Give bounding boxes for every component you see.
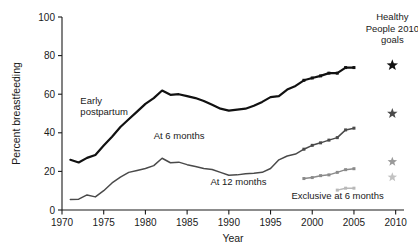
goals-title-line: Healthy — [376, 11, 408, 22]
breastfeeding-trends-chart: 0204060801001970197519801985199019952000… — [0, 0, 418, 247]
series-marker-1 — [336, 136, 339, 139]
series-marker-1 — [327, 139, 330, 142]
series-label-2: At 12 months — [210, 176, 266, 187]
series-marker-2 — [302, 177, 305, 180]
series-marker-0 — [336, 72, 339, 75]
series-marker-2 — [311, 176, 314, 179]
goals-title-line: goals — [381, 34, 404, 45]
series-label-1: At 6 months — [154, 130, 205, 141]
x-tick-label: 1970 — [51, 217, 74, 228]
series-marker-0 — [311, 76, 314, 79]
series-marker-1 — [302, 148, 305, 151]
series-label-0: postpartum — [80, 106, 128, 117]
series-marker-1 — [352, 127, 355, 130]
series-marker-0 — [302, 79, 305, 82]
y-tick-label: 40 — [44, 127, 56, 138]
series-marker-1 — [311, 144, 314, 147]
series-marker-1 — [344, 128, 347, 131]
series-label-0: Early — [80, 95, 102, 106]
goals-title-line: People 2010 — [366, 23, 418, 34]
y-tick-label: 0 — [49, 205, 55, 216]
chart-canvas: 0204060801001970197519801985199019952000… — [0, 0, 418, 247]
x-tick-label: 2010 — [385, 217, 408, 228]
x-tick-label: 1985 — [176, 217, 199, 228]
series-label-3: Exclusive at 6 months — [291, 190, 384, 201]
x-tick-label: 1975 — [93, 217, 116, 228]
series-marker-2 — [336, 171, 339, 174]
series-marker-3 — [352, 187, 355, 190]
x-tick-label: 1995 — [259, 217, 282, 228]
series-marker-0 — [327, 72, 330, 75]
series-marker-0 — [344, 66, 347, 69]
y-axis-title: Percent breastfeeding — [10, 62, 22, 165]
x-axis-title: Year — [222, 232, 244, 244]
series-marker-2 — [327, 173, 330, 176]
series-marker-1 — [319, 141, 322, 144]
x-tick-label: 1980 — [134, 217, 157, 228]
x-tick-label: 2005 — [343, 217, 366, 228]
x-tick-label: 1990 — [218, 217, 241, 228]
y-tick-label: 100 — [38, 12, 55, 23]
y-tick-label: 80 — [44, 50, 56, 61]
series-marker-3 — [344, 187, 347, 190]
x-tick-label: 2000 — [301, 217, 324, 228]
series-marker-2 — [352, 167, 355, 170]
y-tick-label: 20 — [44, 166, 56, 177]
series-marker-2 — [344, 168, 347, 171]
series-marker-2 — [319, 174, 322, 177]
series-marker-0 — [352, 66, 355, 69]
series-marker-0 — [319, 74, 322, 77]
y-tick-label: 60 — [44, 89, 56, 100]
